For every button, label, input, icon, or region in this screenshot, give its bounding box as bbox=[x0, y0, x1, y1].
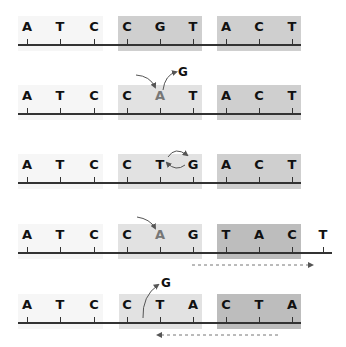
tick bbox=[94, 39, 95, 44]
tick bbox=[193, 39, 194, 44]
removed-base-label: G bbox=[161, 276, 171, 290]
tick bbox=[292, 39, 293, 44]
nucleotide: C bbox=[249, 19, 269, 34]
nucleotide: T bbox=[50, 19, 70, 34]
deletion-arrows-icon bbox=[0, 294, 346, 347]
sequence-row-insertion: A T C C A G T A C T bbox=[0, 224, 346, 274]
tick bbox=[127, 39, 128, 44]
swap-arrows-icon bbox=[0, 154, 346, 204]
substitution-arrows-icon bbox=[0, 85, 346, 135]
nucleotide: A bbox=[17, 19, 37, 34]
nucleotide: T bbox=[183, 19, 203, 34]
nucleotide: T bbox=[282, 19, 302, 34]
tick bbox=[27, 39, 28, 44]
tick bbox=[259, 39, 260, 44]
removed-base-label: G bbox=[178, 65, 188, 79]
sequence-row-inversion: A T C C T G A C T bbox=[0, 154, 346, 204]
dna-backbone bbox=[18, 44, 301, 46]
sequence-row-substitution: A T C C A T A C T G bbox=[0, 85, 346, 135]
insertion-arrows-icon bbox=[0, 224, 346, 284]
nucleotide: G bbox=[150, 19, 170, 34]
sequence-row-original: A T C C G T A C T bbox=[0, 16, 346, 66]
tick bbox=[60, 39, 61, 44]
tick bbox=[160, 39, 161, 44]
nucleotide: A bbox=[216, 19, 236, 34]
nucleotide: C bbox=[117, 19, 137, 34]
nucleotide: C bbox=[84, 19, 104, 34]
sequence-row-deletion: A T C C T A C T A G bbox=[0, 294, 346, 344]
tick bbox=[226, 39, 227, 44]
